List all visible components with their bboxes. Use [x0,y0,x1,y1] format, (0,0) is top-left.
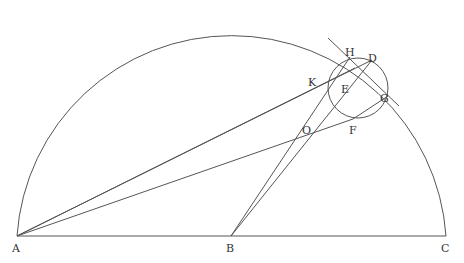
label-F: F [349,124,357,137]
label-E: E [341,83,349,96]
label-H: H [345,46,355,59]
semicircle-arc [17,36,446,236]
line-BD [231,60,372,236]
line-AK [17,68,355,236]
label-C: C [441,242,449,255]
label-K: K [308,76,317,89]
label-G: G [380,92,389,105]
diagram-canvas: A B C D E F G H K O [0,0,464,263]
label-A: A [11,242,21,255]
geometry-diagram: A B C D E F G H K O [0,0,464,263]
label-B: B [226,242,234,255]
label-D: D [368,52,377,65]
line-BH [231,57,350,236]
label-O: O [302,124,311,137]
